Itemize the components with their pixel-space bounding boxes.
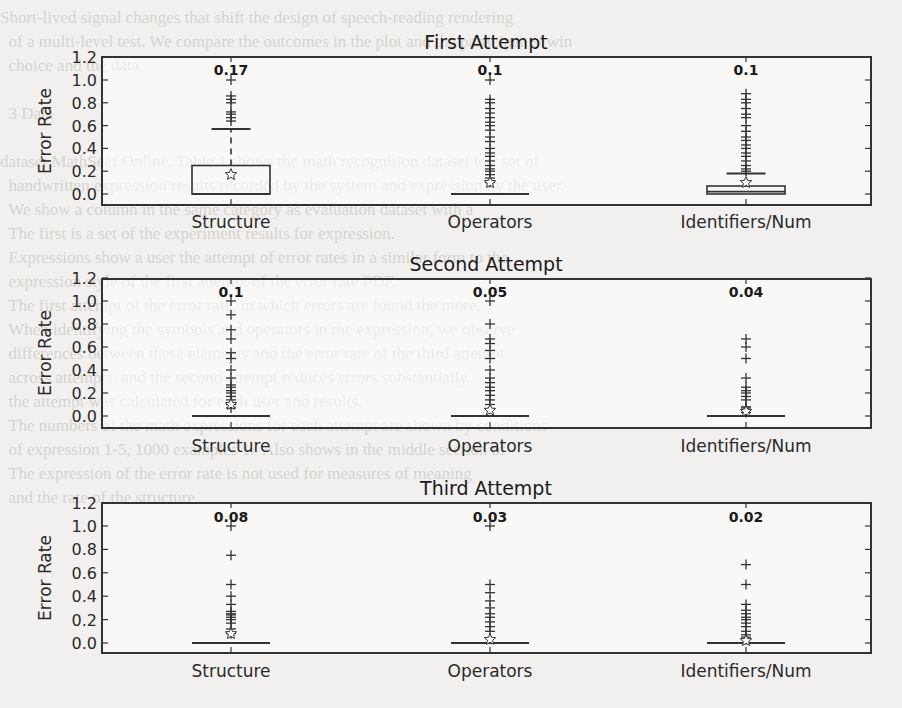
mean-label-identifiers: 0.1 (734, 62, 759, 78)
x-tick-label-structure: Structure (191, 436, 270, 456)
y-tick-label: 0.0 (72, 185, 97, 204)
panel-second-attempt: Second Attempt 0.00.20.40.60.81.01.2 Err… (35, 253, 871, 456)
y-tick-label: 1.2 (72, 48, 97, 67)
x-tick-label-identifiers: Identifiers/Num (680, 212, 811, 232)
y-tick-label: 0.4 (72, 361, 97, 380)
y-tick-label: 0.4 (72, 139, 97, 158)
mean-label-structure: 0.1 (219, 284, 244, 300)
y-tick-label: 0.8 (72, 94, 97, 113)
y-tick-label: 1.2 (72, 494, 97, 513)
y-tick-label: 0.0 (72, 634, 97, 653)
x-tick-label-operators: Operators (448, 436, 533, 456)
panel-third-attempt: Third Attempt 0.00.20.40.60.81.01.2 Erro… (35, 477, 871, 681)
y-axis-label: Error Rate (35, 310, 55, 396)
panel-title: Second Attempt (409, 253, 562, 275)
panel-title: Third Attempt (419, 477, 552, 499)
y-tick-label: 0.0 (72, 407, 97, 426)
mean-label-structure: 0.17 (214, 62, 249, 78)
x-tick-label-structure: Structure (191, 212, 270, 232)
y-tick-label: 0.2 (72, 162, 97, 181)
y-tick-label: 0.2 (72, 384, 97, 403)
mean-label-operators: 0.1 (478, 62, 503, 78)
mean-label-operators: 0.05 (473, 284, 508, 300)
x-tick-label-identifiers: Identifiers/Num (680, 661, 811, 681)
y-tick-label: 0.6 (72, 564, 97, 583)
x-tick-label-identifiers: Identifiers/Num (680, 436, 811, 456)
y-tick-label: 0.8 (72, 540, 97, 559)
x-tick-label-operators: Operators (448, 212, 533, 232)
y-axis-label: Error Rate (35, 535, 55, 621)
y-tick-label: 0.8 (72, 315, 97, 334)
mean-label-structure: 0.08 (214, 509, 249, 525)
panel-title: First Attempt (424, 31, 547, 53)
y-tick-label: 0.6 (72, 338, 97, 357)
y-tick-label: 0.4 (72, 587, 97, 606)
y-tick-label: 1.2 (72, 269, 97, 288)
mean-label-identifiers: 0.02 (729, 509, 764, 525)
x-tick-label-structure: Structure (191, 661, 270, 681)
panel-first-attempt: First Attempt 0.00.20.40.60.81.01.2 Erro… (35, 31, 871, 232)
x-tick-label-operators: Operators (448, 661, 533, 681)
y-tick-label: 1.0 (72, 292, 97, 311)
box-plot-figure: First Attempt 0.00.20.40.60.81.01.2 Erro… (0, 0, 902, 708)
mean-label-operators: 0.03 (473, 509, 508, 525)
y-axis-label: Error Rate (35, 88, 55, 174)
y-tick-label: 0.6 (72, 117, 97, 136)
y-tick-label: 1.0 (72, 71, 97, 90)
y-tick-label: 1.0 (72, 517, 97, 536)
y-tick-label: 0.2 (72, 611, 97, 630)
mean-label-identifiers: 0.04 (729, 284, 764, 300)
